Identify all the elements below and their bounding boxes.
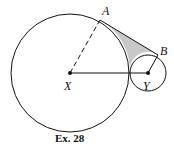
- radius-yb: [148, 55, 158, 73]
- label-b: B: [160, 44, 168, 58]
- point-y-dot: [146, 71, 150, 75]
- radius-xa-dashed: [70, 20, 100, 73]
- diagram: A B X Y Ex. 28: [0, 0, 174, 146]
- point-x-dot: [68, 71, 72, 75]
- label-a: A: [101, 4, 110, 18]
- caption: Ex. 28: [55, 132, 85, 144]
- label-x: X: [63, 79, 72, 93]
